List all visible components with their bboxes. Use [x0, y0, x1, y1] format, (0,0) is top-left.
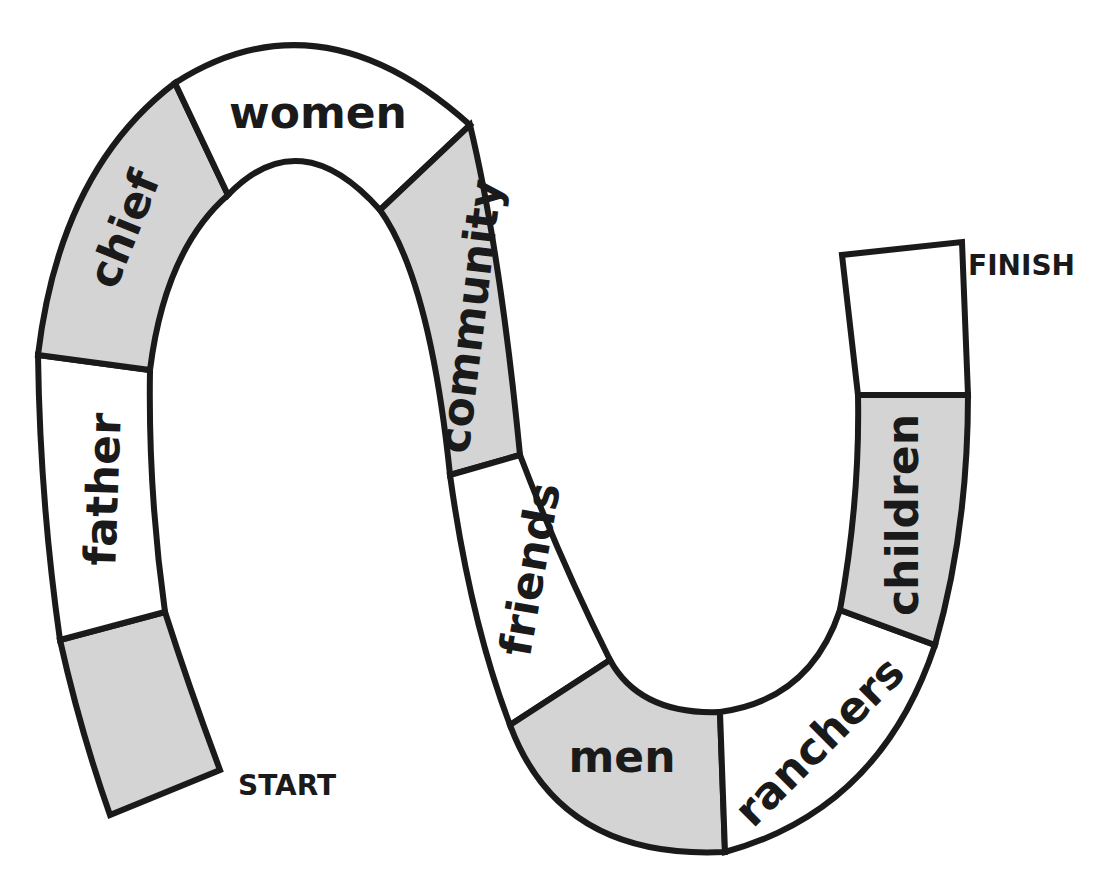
space-start[interactable]	[60, 612, 220, 815]
label-children: children	[877, 414, 928, 616]
label-men: men	[568, 731, 675, 782]
finish-label: FINISH	[968, 249, 1075, 282]
space-finish[interactable]	[842, 242, 968, 395]
start-label: START	[238, 769, 336, 802]
label-father: father	[74, 412, 130, 567]
label-women: women	[229, 87, 407, 138]
game-board: father chief women community friends men…	[0, 0, 1119, 878]
